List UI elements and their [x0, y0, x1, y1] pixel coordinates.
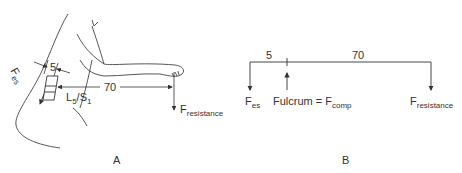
f-resistance-label-b: Fresistance — [410, 96, 453, 107]
vertebra-s: /S — [77, 91, 87, 103]
fulcrum-sub: comp — [332, 101, 352, 110]
vertebra-l-sub: 5 — [72, 97, 76, 106]
body-outline — [16, 14, 184, 148]
short-arm-label-a: 5 — [50, 62, 56, 73]
panel-label-b: B — [342, 154, 349, 166]
f-resistance-main: F — [410, 95, 417, 107]
panel-label-a: A — [113, 154, 120, 166]
lever-beam — [250, 58, 431, 90]
f-resistance-sub: resistance — [417, 101, 453, 110]
fulcrum-text: Fulcrum = F — [273, 95, 332, 107]
f-resistance-main: F — [180, 103, 187, 115]
lever-diagram — [0, 0, 462, 173]
f-resistance-label-a: Fresistance — [180, 104, 223, 115]
f-es-label-b: Fes — [245, 96, 260, 107]
erector-spinae-muscle — [40, 76, 58, 104]
long-arm-label-b: 70 — [352, 50, 364, 61]
f-es-sub: es — [252, 101, 260, 110]
long-arm-label-a: 70 — [104, 82, 116, 93]
vertebra-s-sub: 1 — [87, 97, 91, 106]
short-arm-label-b: 5 — [266, 50, 272, 61]
fulcrum-label: Fulcrum = Fcomp — [273, 96, 352, 107]
f-resistance-sub: resistance — [187, 109, 223, 118]
f-es-main: F — [245, 95, 252, 107]
vertebra-label: L5/S1 — [66, 92, 91, 103]
